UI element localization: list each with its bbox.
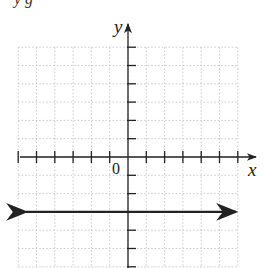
x-axis-label: x (247, 159, 257, 180)
y-axis-label: y (112, 16, 123, 37)
origin-label: 0 (112, 160, 120, 177)
coordinate-plane: y x 0 (0, 0, 264, 268)
